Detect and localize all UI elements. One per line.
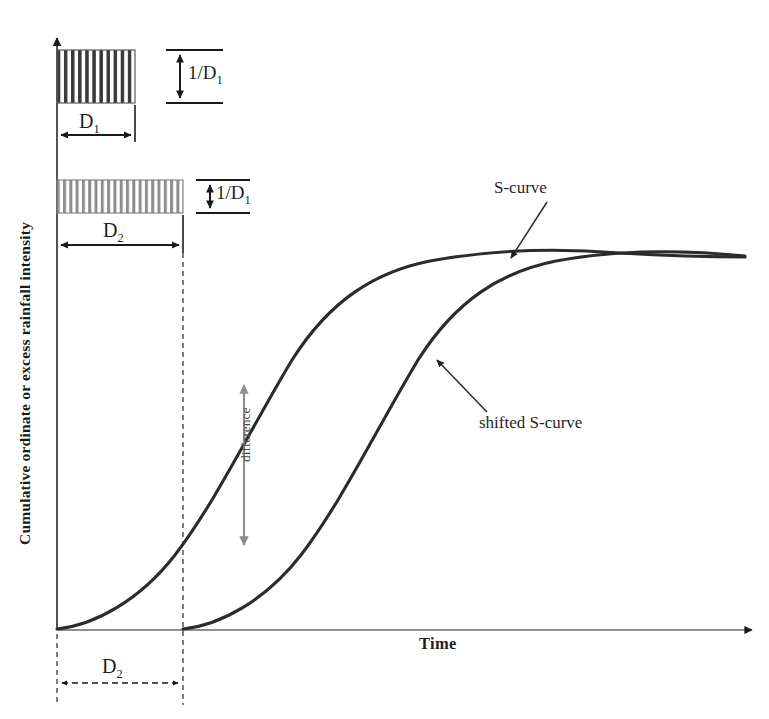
block-2-intensity-label: 1/D1	[216, 182, 251, 208]
figure-canvas: Cumulative ordinate or excess rainfall i…	[0, 0, 769, 719]
shifted-s-curve-leader	[437, 360, 487, 412]
block-1-intensity-label: 1/D1	[188, 62, 223, 88]
block-2-intensity-sub: 1	[245, 193, 251, 207]
diagram-svg	[0, 0, 769, 719]
s-curve-path	[57, 250, 745, 629]
second-rainfall-block	[57, 180, 183, 213]
block-2-duration-text: D	[103, 219, 117, 241]
shift-dimension-label: D2	[102, 655, 123, 682]
block-1-duration-sub: 1	[93, 122, 99, 136]
block-2-duration-label: D2	[103, 219, 124, 246]
y-axis-label: Cumulative ordinate or excess rainfall i…	[16, 125, 34, 545]
axis-group	[57, 38, 752, 630]
block-1-intensity-sub: 1	[217, 73, 223, 87]
block-1-intensity-text: 1/D	[188, 62, 217, 83]
block-1-duration-text: D	[79, 110, 93, 132]
block-1-duration-label: D1	[79, 110, 100, 137]
block-2-intensity-text: 1/D	[216, 182, 245, 203]
shifted-s-curve-path	[183, 252, 745, 629]
x-axis-label: Time	[419, 634, 457, 654]
block-2-duration-sub: 2	[117, 231, 123, 245]
s-curve-label: S-curve	[494, 178, 547, 198]
block-1-body	[57, 50, 135, 103]
difference-label: difference	[238, 408, 254, 462]
shifted-s-curve-label: shifted S-curve	[479, 413, 582, 433]
block-2-body	[57, 180, 183, 213]
y-axis-label-wrap: Cumulative ordinate or excess rainfall i…	[16, 545, 17, 546]
difference-label-wrap: difference	[238, 462, 239, 463]
shift-dimension-sub: 2	[116, 667, 122, 681]
first-rainfall-block	[57, 50, 135, 103]
shift-dimension-text: D	[102, 655, 116, 677]
